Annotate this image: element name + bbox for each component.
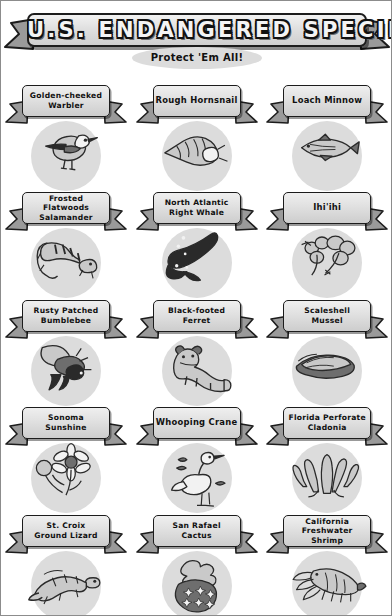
ribbon-plate: North Atlantic Right Whale <box>153 192 241 224</box>
species-name-ribbon: Black-footed Ferret <box>136 298 258 342</box>
ribbon-plate: Frosted Flatwoods Salamander <box>22 192 110 224</box>
species-name-ribbon: Rusty Patched Bumblebee <box>5 298 127 342</box>
species-name-label: Rough Hornsnail <box>154 96 240 106</box>
species-card[interactable]: Frosted Flatwoods Salamander <box>1 186 132 294</box>
species-name-label: Rusty Patched Bumblebee <box>32 306 101 325</box>
species-grid: Golden-cheeked Warbler Rough Hornsnail L… <box>1 79 392 616</box>
species-name-ribbon: Loach Minnow <box>266 83 388 127</box>
ribbon-plate: San Rafael Cactus <box>153 515 241 547</box>
species-name-label: North Atlantic Right Whale <box>163 198 231 217</box>
species-name-label: Ihi'ihi <box>311 203 343 213</box>
ground-lizard-icon <box>23 549 109 615</box>
ribbon-plate: Whooping Crane <box>153 407 241 439</box>
hornsnail-icon <box>154 119 240 185</box>
bumblebee-icon <box>23 334 109 400</box>
poster-subtitle: Protect 'Em All! <box>1 47 392 69</box>
species-name-ribbon: Ihi'ihi <box>266 190 388 234</box>
species-name-label: San Rafael Cactus <box>170 521 222 540</box>
species-name-label: Scaleshell Mussel <box>302 306 352 325</box>
ribbon-plate: Rough Hornsnail <box>153 85 241 117</box>
species-card[interactable]: San Rafael Cactus <box>132 509 263 616</box>
ferret-icon <box>154 334 240 400</box>
species-name-label: Golden-cheeked Warbler <box>28 91 104 110</box>
ribbon-plate: St. Croix Ground Lizard <box>22 515 110 547</box>
species-name-label: Whooping Crane <box>154 418 240 428</box>
species-name-label: Florida Perforate Cladonia <box>286 413 367 432</box>
species-name-ribbon: California Freshwater Shrimp <box>266 513 388 557</box>
species-name-ribbon: Whooping Crane <box>136 405 258 449</box>
species-name-ribbon: Sonoma Sunshine <box>5 405 127 449</box>
poster-title: U.S. ENDANGERED SPECIES <box>27 13 367 47</box>
species-name-ribbon: North Atlantic Right Whale <box>136 190 258 234</box>
ribbon-plate: Rusty Patched Bumblebee <box>22 300 110 332</box>
cactus-icon <box>154 549 240 615</box>
species-card[interactable]: California Freshwater Shrimp <box>262 509 392 616</box>
mussel-icon <box>284 334 370 400</box>
ribbon-plate: Golden-cheeked Warbler <box>22 85 110 117</box>
minnow-icon <box>284 119 370 185</box>
species-name-label: St. Croix Ground Lizard <box>32 521 100 540</box>
ribbon-plate: Ihi'ihi <box>283 192 371 224</box>
species-name-label: Frosted Flatwoods Salamander <box>23 194 109 223</box>
species-name-ribbon: St. Croix Ground Lizard <box>5 513 127 557</box>
species-card[interactable]: Ihi'ihi <box>262 186 392 294</box>
species-card[interactable]: Rusty Patched Bumblebee <box>1 294 132 402</box>
species-card[interactable]: Florida Perforate Cladonia <box>262 401 392 509</box>
species-card[interactable]: Sonoma Sunshine <box>1 401 132 509</box>
ribbon-plate: Loach Minnow <box>283 85 371 117</box>
cladonia-lichen-icon <box>284 441 370 507</box>
species-card[interactable]: Black-footed Ferret <box>132 294 263 402</box>
species-card[interactable]: Scaleshell Mussel <box>262 294 392 402</box>
sunshine-flower-icon <box>23 441 109 507</box>
species-card[interactable]: North Atlantic Right Whale <box>132 186 263 294</box>
species-name-ribbon: Florida Perforate Cladonia <box>266 405 388 449</box>
species-card[interactable]: St. Croix Ground Lizard <box>1 509 132 616</box>
salamander-icon <box>23 226 109 292</box>
warbler-icon <box>23 119 109 185</box>
whooping-crane-icon <box>154 441 240 507</box>
species-name-ribbon: Scaleshell Mussel <box>266 298 388 342</box>
species-name-label: California Freshwater Shrimp <box>284 517 370 546</box>
species-card[interactable]: Rough Hornsnail <box>132 79 263 187</box>
species-name-ribbon: Frosted Flatwoods Salamander <box>5 190 127 234</box>
species-name-label: Black-footed Ferret <box>166 306 227 325</box>
ribbon-plate: Sonoma Sunshine <box>22 407 110 439</box>
species-name-ribbon: San Rafael Cactus <box>136 513 258 557</box>
species-name-label: Loach Minnow <box>290 96 364 106</box>
endangered-species-poster: U.S. ENDANGERED SPECIES Protect 'Em All!… <box>0 0 392 616</box>
right-whale-icon <box>154 226 240 292</box>
species-card[interactable]: Whooping Crane <box>132 401 263 509</box>
freshwater-shrimp-icon <box>284 549 370 615</box>
species-name-label: Sonoma Sunshine <box>43 413 88 432</box>
ribbon-plate: Florida Perforate Cladonia <box>283 407 371 439</box>
species-card[interactable]: Loach Minnow <box>262 79 392 187</box>
ribbon-plate: Black-footed Ferret <box>153 300 241 332</box>
ribbon-plate: Scaleshell Mussel <box>283 300 371 332</box>
species-name-ribbon: Golden-cheeked Warbler <box>5 83 127 127</box>
ribbon-plate: California Freshwater Shrimp <box>283 515 371 547</box>
species-name-ribbon: Rough Hornsnail <box>136 83 258 127</box>
poster-subtitle-area: Protect 'Em All! <box>1 45 392 71</box>
species-card[interactable]: Golden-cheeked Warbler <box>1 79 132 187</box>
ihiihi-plant-icon <box>284 226 370 292</box>
